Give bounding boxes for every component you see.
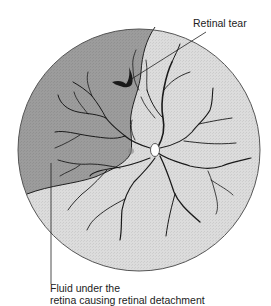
fluid-label-line2: retina causing retinal detachment bbox=[50, 294, 205, 306]
fluid-label-line1: Fluid under the bbox=[50, 282, 205, 294]
optic-disc bbox=[151, 144, 160, 157]
macula bbox=[128, 148, 134, 154]
retinal-tear-label: Retinal tear bbox=[193, 17, 247, 29]
fluid-label: Fluid under the retina causing retinal d… bbox=[50, 282, 205, 306]
